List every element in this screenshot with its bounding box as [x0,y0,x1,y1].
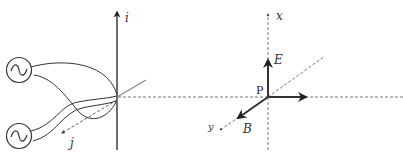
ac-source-bottom [7,124,32,149]
j-label: j [67,136,74,150]
diagram-canvas: i j x y [0,0,403,154]
x-label: x [276,9,283,23]
i-label: i [125,11,129,25]
e-label: E [273,53,283,67]
wire-top-2 [34,75,116,119]
point-p-label: P [256,84,264,97]
b-label: B [242,122,252,136]
left-diagonal-grey [117,80,146,97]
b-vector [238,97,268,118]
right-panel: x y E B P [200,9,403,150]
y-label: y [207,121,214,132]
ac-source-top [7,58,32,83]
left-panel: i j [7,11,201,150]
